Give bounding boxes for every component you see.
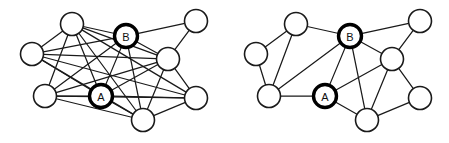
graph-edge [154,102,186,115]
graph-node-highlighted-b[interactable]: B [115,25,138,48]
graph-canvas: BABA [0,0,449,143]
node-circle [21,43,44,66]
graph-edge [41,31,63,47]
graph-edge [175,30,189,49]
graph-node[interactable] [381,48,404,71]
graph-edge [49,35,68,85]
node-circle [409,87,432,110]
graph-edge [335,102,357,115]
graph-node[interactable] [21,43,44,66]
graph-node[interactable] [285,13,308,36]
graph-edge [371,70,387,110]
graph-edge [378,102,410,115]
graph-edge [147,70,163,110]
node-circle [409,10,432,33]
graph-edge [259,65,265,85]
graph-node[interactable] [132,109,155,132]
node-circle [115,25,138,48]
node-circle [132,109,155,132]
graph-node-highlighted-a[interactable]: A [314,85,337,108]
graph-edge [399,68,414,88]
graph-node[interactable] [157,48,180,71]
node-circle [157,48,180,71]
graph-node[interactable] [185,87,208,110]
graph-edge [175,68,190,88]
graph-edge [329,47,345,86]
node-circle [285,13,308,36]
graph-node[interactable] [185,10,208,33]
graph-node[interactable] [245,43,268,66]
node-circle [61,13,84,36]
node-circle [258,85,281,108]
node-circle [185,10,208,33]
node-circle [90,85,113,108]
node-circle [356,109,379,132]
graph-node[interactable] [409,10,432,33]
graph-node-highlighted-b[interactable]: B [339,25,362,48]
graph-node[interactable] [356,109,379,132]
node-circle [34,85,57,108]
graph-edge [265,31,287,47]
node-circle [339,25,362,48]
node-circle [245,43,268,66]
graph-edge [335,65,382,91]
graph-edge [307,26,339,33]
nodes-layer: BABA [21,10,432,132]
graph-node[interactable] [409,87,432,110]
graph-node[interactable] [258,85,281,108]
node-circle [314,85,337,108]
graph-edge [399,30,413,49]
graph-edge [361,23,409,33]
graph-edge [273,35,292,85]
graph-node[interactable] [34,85,57,108]
graph-node-highlighted-a[interactable]: A [90,85,113,108]
node-circle [381,48,404,71]
sparse-graph-nodes: BA [245,10,432,132]
node-circle [185,87,208,110]
graph-node[interactable] [61,13,84,36]
graph-edge [360,42,382,54]
graph-edge [137,23,185,33]
graph-figure: BABA [0,0,449,143]
